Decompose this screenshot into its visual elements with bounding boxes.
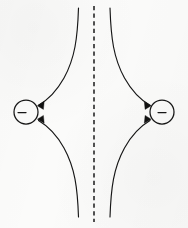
lower-left-field-line	[39, 121, 79, 217]
left-upper-arrowhead-icon	[37, 102, 44, 110]
diagram-canvas	[0, 0, 188, 228]
upper-right-field-line	[110, 8, 150, 105]
upper-left-field-line	[39, 8, 79, 105]
lower-right-field-line	[110, 121, 150, 217]
field-line-diagram	[0, 0, 188, 228]
